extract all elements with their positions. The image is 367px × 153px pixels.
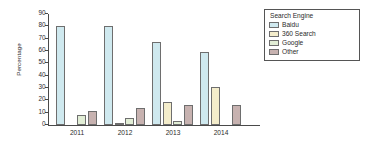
legend-item-label: Google	[282, 39, 303, 47]
bar	[136, 108, 145, 125]
legend-swatch-icon	[269, 49, 279, 56]
bar-chart: Percentage 0102030405060708090 201120122…	[0, 0, 367, 153]
plot-area: 0102030405060708090 2011201220132014	[48, 14, 255, 126]
bar	[200, 52, 209, 125]
bar-group: 2013	[152, 14, 194, 125]
y-tick-label: 70	[38, 34, 45, 41]
y-tick: 80	[48, 25, 51, 26]
bar	[152, 42, 161, 125]
bar	[184, 105, 193, 125]
x-tick-label: 2014	[200, 129, 242, 136]
y-tick-label: 10	[38, 108, 45, 115]
y-tick: 40	[48, 75, 51, 76]
legend-swatch-icon	[269, 22, 279, 29]
y-tick: 60	[48, 50, 51, 51]
legend-item[interactable]: Google	[269, 39, 355, 48]
legend-items: Baidu360 SearchGoogleOther	[269, 21, 355, 57]
legend-item-label: Baidu	[282, 21, 299, 29]
bar-group: 2011	[56, 14, 98, 125]
bar	[232, 105, 241, 125]
y-tick-label: 30	[38, 83, 45, 90]
legend-swatch-icon	[269, 40, 279, 47]
bar	[115, 123, 124, 125]
y-tick: 0	[48, 124, 51, 125]
legend-title: Search Engine	[269, 12, 355, 19]
y-axis-title: Percentage	[15, 20, 22, 100]
bar	[211, 87, 220, 125]
legend-item-label: 360 Search	[282, 30, 316, 38]
y-tick-label: 50	[38, 58, 45, 65]
legend-item[interactable]: Other	[269, 48, 355, 57]
y-tick: 50	[48, 62, 51, 63]
bar	[56, 26, 65, 125]
y-axis-line	[48, 14, 49, 126]
legend-swatch-icon	[269, 31, 279, 38]
y-tick-label: 80	[38, 21, 45, 28]
bar	[104, 26, 113, 125]
y-tick: 70	[48, 38, 51, 39]
y-tick-label: 0	[42, 120, 46, 127]
y-tick: 90	[48, 13, 51, 14]
bar	[77, 115, 86, 125]
x-axis-line	[48, 125, 260, 126]
legend-item[interactable]: Baidu	[269, 21, 355, 30]
y-tick-label: 90	[38, 9, 45, 16]
y-tick-label: 20	[38, 95, 45, 102]
x-tick-label: 2011	[56, 129, 98, 136]
bar-group: 2014	[200, 14, 242, 125]
x-tick-label: 2013	[152, 129, 194, 136]
y-tick-label: 60	[38, 46, 45, 53]
y-tick: 30	[48, 87, 51, 88]
x-tick-label: 2012	[104, 129, 146, 136]
bar-group: 2012	[104, 14, 146, 125]
bar	[125, 118, 134, 125]
y-tick-label: 40	[38, 71, 45, 78]
legend: Search Engine Baidu360 SearchGoogleOther	[264, 9, 360, 61]
y-tick: 10	[48, 112, 51, 113]
legend-item[interactable]: 360 Search	[269, 30, 355, 39]
bar	[88, 111, 97, 125]
bar	[163, 102, 172, 125]
y-tick: 20	[48, 99, 51, 100]
legend-item-label: Other	[282, 48, 299, 56]
bar	[173, 121, 182, 125]
